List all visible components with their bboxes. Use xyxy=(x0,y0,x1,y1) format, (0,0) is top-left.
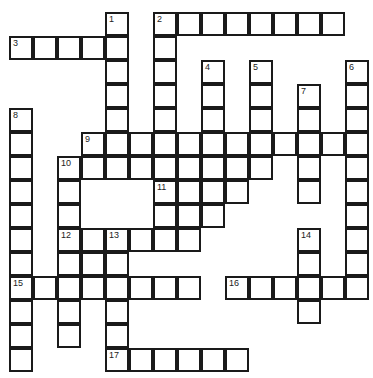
crossword-cell[interactable] xyxy=(177,156,201,180)
crossword-cell[interactable] xyxy=(57,324,81,348)
crossword-cell[interactable] xyxy=(81,252,105,276)
crossword-cell[interactable]: 1 xyxy=(105,12,129,36)
crossword-cell[interactable] xyxy=(9,180,33,204)
crossword-cell[interactable] xyxy=(129,276,153,300)
crossword-cell[interactable]: 15 xyxy=(9,276,33,300)
crossword-cell[interactable] xyxy=(249,84,273,108)
crossword-cell[interactable] xyxy=(153,156,177,180)
crossword-cell[interactable] xyxy=(153,276,177,300)
crossword-cell[interactable] xyxy=(9,228,33,252)
crossword-cell[interactable] xyxy=(225,180,249,204)
crossword-cell[interactable] xyxy=(153,348,177,372)
crossword-cell[interactable] xyxy=(105,36,129,60)
crossword-cell[interactable] xyxy=(177,132,201,156)
crossword-cell[interactable] xyxy=(345,84,369,108)
crossword-cell[interactable] xyxy=(345,252,369,276)
crossword-cell[interactable] xyxy=(345,108,369,132)
crossword-cell[interactable]: 10 xyxy=(57,156,81,180)
crossword-cell[interactable] xyxy=(9,252,33,276)
crossword-cell[interactable] xyxy=(345,204,369,228)
crossword-cell[interactable] xyxy=(153,132,177,156)
crossword-cell[interactable] xyxy=(9,300,33,324)
crossword-cell[interactable] xyxy=(249,132,273,156)
crossword-cell[interactable] xyxy=(249,156,273,180)
crossword-cell[interactable] xyxy=(81,156,105,180)
crossword-cell[interactable] xyxy=(177,228,201,252)
crossword-cell[interactable] xyxy=(225,156,249,180)
crossword-cell[interactable] xyxy=(225,12,249,36)
crossword-cell[interactable] xyxy=(9,132,33,156)
crossword-cell[interactable] xyxy=(81,36,105,60)
crossword-cell[interactable] xyxy=(105,276,129,300)
crossword-cell[interactable] xyxy=(273,276,297,300)
crossword-cell[interactable] xyxy=(105,132,129,156)
crossword-cell[interactable] xyxy=(297,252,321,276)
crossword-cell[interactable] xyxy=(129,132,153,156)
crossword-cell[interactable] xyxy=(105,60,129,84)
crossword-cell[interactable] xyxy=(225,132,249,156)
crossword-cell[interactable] xyxy=(105,84,129,108)
crossword-cell[interactable] xyxy=(9,348,33,372)
crossword-cell[interactable] xyxy=(57,180,81,204)
crossword-cell[interactable]: 7 xyxy=(297,84,321,108)
crossword-cell[interactable] xyxy=(297,12,321,36)
crossword-cell[interactable] xyxy=(201,348,225,372)
crossword-cell[interactable] xyxy=(345,276,369,300)
crossword-cell[interactable] xyxy=(105,324,129,348)
crossword-cell[interactable] xyxy=(153,108,177,132)
crossword-cell[interactable] xyxy=(57,36,81,60)
crossword-cell[interactable]: 12 xyxy=(57,228,81,252)
crossword-cell[interactable] xyxy=(129,228,153,252)
crossword-cell[interactable]: 5 xyxy=(249,60,273,84)
crossword-cell[interactable] xyxy=(297,156,321,180)
crossword-cell[interactable] xyxy=(153,228,177,252)
crossword-cell[interactable] xyxy=(297,276,321,300)
crossword-cell[interactable]: 8 xyxy=(9,108,33,132)
crossword-cell[interactable]: 13 xyxy=(105,228,129,252)
crossword-cell[interactable] xyxy=(105,252,129,276)
crossword-cell[interactable] xyxy=(225,348,249,372)
crossword-cell[interactable] xyxy=(201,204,225,228)
crossword-cell[interactable]: 14 xyxy=(297,228,321,252)
crossword-cell[interactable] xyxy=(177,180,201,204)
crossword-cell[interactable] xyxy=(201,132,225,156)
crossword-cell[interactable] xyxy=(153,204,177,228)
crossword-cell[interactable] xyxy=(177,348,201,372)
crossword-cell[interactable] xyxy=(33,276,57,300)
crossword-cell[interactable] xyxy=(105,156,129,180)
crossword-cell[interactable] xyxy=(9,324,33,348)
crossword-cell[interactable] xyxy=(273,12,297,36)
crossword-cell[interactable] xyxy=(321,276,345,300)
crossword-cell[interactable] xyxy=(249,108,273,132)
crossword-cell[interactable] xyxy=(201,180,225,204)
crossword-cell[interactable] xyxy=(9,204,33,228)
crossword-cell[interactable] xyxy=(33,36,57,60)
crossword-cell[interactable] xyxy=(129,348,153,372)
crossword-cell[interactable] xyxy=(297,300,321,324)
crossword-cell[interactable]: 3 xyxy=(9,36,33,60)
crossword-cell[interactable] xyxy=(345,228,369,252)
crossword-cell[interactable] xyxy=(321,132,345,156)
crossword-cell[interactable] xyxy=(129,156,153,180)
crossword-cell[interactable] xyxy=(153,84,177,108)
crossword-cell[interactable] xyxy=(57,300,81,324)
crossword-cell[interactable] xyxy=(177,12,201,36)
crossword-cell[interactable]: 16 xyxy=(225,276,249,300)
crossword-cell[interactable]: 2 xyxy=(153,12,177,36)
crossword-cell[interactable] xyxy=(249,12,273,36)
crossword-cell[interactable] xyxy=(345,132,369,156)
crossword-cell[interactable] xyxy=(105,300,129,324)
crossword-cell[interactable] xyxy=(297,132,321,156)
crossword-cell[interactable] xyxy=(9,156,33,180)
crossword-cell[interactable]: 6 xyxy=(345,60,369,84)
crossword-cell[interactable] xyxy=(273,132,297,156)
crossword-cell[interactable] xyxy=(177,204,201,228)
crossword-cell[interactable] xyxy=(345,156,369,180)
crossword-cell[interactable]: 9 xyxy=(81,132,105,156)
crossword-cell[interactable] xyxy=(81,228,105,252)
crossword-cell[interactable] xyxy=(201,156,225,180)
crossword-cell[interactable] xyxy=(57,204,81,228)
crossword-cell[interactable] xyxy=(297,108,321,132)
crossword-cell[interactable] xyxy=(321,12,345,36)
crossword-cell[interactable] xyxy=(201,12,225,36)
